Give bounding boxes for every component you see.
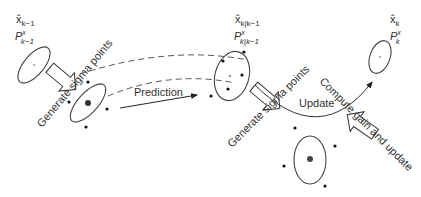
sigma-point xyxy=(84,125,87,128)
predicted-mean-label: x̂k|k−1 xyxy=(235,13,260,28)
sigma-point xyxy=(209,94,212,97)
generate-sigma-label-1: Generate sigma points xyxy=(34,36,115,129)
predicted-center xyxy=(229,75,232,78)
sigma-point xyxy=(86,80,89,83)
posterior-cov-label: Pxk xyxy=(390,29,401,46)
posterior-mean-label: x̂k xyxy=(390,13,401,28)
compute-gain-label: Compute gain and update xyxy=(318,75,416,173)
prior-mean-label: x̂k−1 xyxy=(16,13,35,28)
posterior-state: x̂k Pxk xyxy=(365,13,402,76)
posterior-center xyxy=(379,56,381,58)
prior-cov-label: Pxk−1 xyxy=(15,29,34,46)
update-label: Update xyxy=(299,97,334,109)
prediction-label: Prediction xyxy=(134,86,183,98)
sigma-point xyxy=(242,50,245,53)
prior-state: x̂k−1 Pxk−1 xyxy=(12,13,56,88)
sigma-point xyxy=(221,59,224,62)
ukf-diagram: x̂k−1 Pxk−1 Generate sigma points Predic… xyxy=(0,0,421,197)
sigma-point xyxy=(85,100,91,106)
sigma-point xyxy=(240,73,243,76)
sigma-point xyxy=(105,107,108,110)
prior-center xyxy=(33,64,35,66)
predicted-cov-label: Pxk|k−1 xyxy=(234,29,259,46)
sigma-point xyxy=(67,100,70,103)
sigma-point xyxy=(293,126,296,129)
sigma-point xyxy=(323,184,326,187)
sigma-point xyxy=(333,144,336,147)
sigma-point xyxy=(307,156,313,162)
sigma-point xyxy=(226,87,229,90)
sigma-point xyxy=(282,164,285,167)
sigma-set-2 xyxy=(282,126,336,187)
predicted-ellipse xyxy=(209,47,255,104)
